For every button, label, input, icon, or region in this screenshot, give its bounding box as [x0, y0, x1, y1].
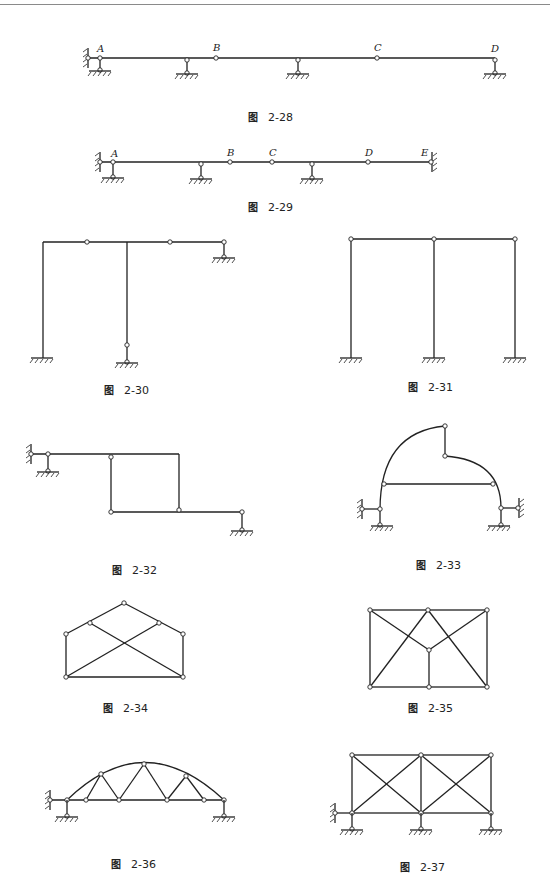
- node-label-C: C: [374, 42, 382, 53]
- caption-fig-2-30: 图2-30: [104, 382, 149, 397]
- figure-number: 2-34: [123, 702, 148, 715]
- figure-number: 2-36: [131, 858, 156, 871]
- figure-2-29-diagram: [95, 152, 437, 184]
- figure-number: 2-37: [420, 861, 445, 874]
- figure-number: 2-30: [124, 384, 149, 397]
- figure-prefix: 图: [112, 565, 122, 576]
- figure-prefix: 图: [408, 382, 418, 393]
- figure-2-34-diagram: [64, 601, 185, 679]
- figure-prefix: 图: [400, 862, 410, 873]
- caption-fig-2-29: 图2-29: [248, 199, 293, 214]
- node-label-D: D: [364, 147, 373, 158]
- figure-prefix: 图: [104, 385, 114, 396]
- node-label-C: C: [269, 147, 277, 158]
- figure-number: 2-32: [132, 564, 157, 577]
- node-label-B: B: [226, 147, 234, 158]
- caption-fig-2-34: 图2-34: [103, 700, 148, 715]
- caption-fig-2-35: 图2-35: [408, 700, 453, 715]
- figures-canvas: A B C D A B C D E: [0, 0, 550, 875]
- figure-2-30-diagram: [30, 240, 235, 368]
- figure-2-32-diagram: [26, 444, 253, 536]
- figure-2-28-diagram: [83, 48, 506, 79]
- figure-prefix: 图: [416, 560, 426, 571]
- figure-number: 2-29: [268, 201, 293, 214]
- figure-prefix: 图: [248, 202, 258, 213]
- figure-2-35-diagram: [368, 608, 489, 689]
- caption-fig-2-33: 图2-33: [416, 557, 461, 572]
- node-label-E: E: [420, 147, 429, 158]
- figure-number: 2-35: [428, 702, 453, 715]
- caption-fig-2-37: 图2-37: [400, 859, 445, 874]
- figure-2-36-diagram: [45, 762, 235, 822]
- figure-prefix: 图: [103, 703, 113, 714]
- figure-prefix: 图: [111, 859, 121, 870]
- caption-fig-2-36: 图2-36: [111, 856, 156, 871]
- figure-2-33-diagram: [357, 424, 524, 531]
- figure-number: 2-31: [428, 381, 453, 394]
- figure-2-37-diagram: [330, 753, 502, 835]
- node-label-B: B: [212, 42, 220, 53]
- figure-number: 2-28: [268, 111, 293, 124]
- caption-fig-2-28: 图2-28: [248, 109, 293, 124]
- figure-prefix: 图: [408, 703, 418, 714]
- caption-fig-2-32: 图2-32: [112, 562, 157, 577]
- figure-prefix: 图: [248, 112, 258, 123]
- node-label-A: A: [110, 148, 118, 159]
- caption-fig-2-31: 图2-31: [408, 379, 453, 394]
- node-label-A: A: [96, 43, 104, 54]
- node-label-D: D: [490, 43, 499, 54]
- figure-2-31-diagram: [339, 237, 526, 363]
- figure-number: 2-33: [436, 559, 461, 572]
